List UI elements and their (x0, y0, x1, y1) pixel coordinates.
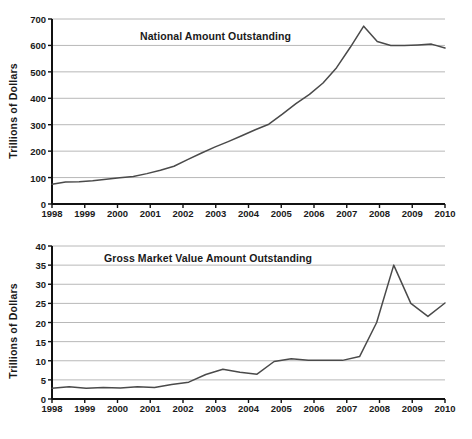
y-tick-label: 40 (16, 241, 46, 252)
y-tick-label: 100 (16, 172, 46, 183)
y-tick-label: 15 (16, 336, 46, 347)
y-tick-label: 300 (16, 119, 46, 130)
plot-svg-top (0, 0, 472, 222)
y-tick-label: 500 (16, 66, 46, 77)
y-tick-label: 30 (16, 279, 46, 290)
chart-national-amount-outstanding: Trillions of Dollars National Amount Out… (0, 0, 472, 222)
y-tick-label: 35 (16, 260, 46, 271)
x-tick-label: 2010 (425, 403, 465, 414)
y-tick-label: 600 (16, 40, 46, 51)
plot-area-top (0, 0, 472, 222)
chart-gross-market-value-amount-outstanding: Trillions of Dollars Gross Market Value … (0, 222, 472, 439)
y-tick-label: 10 (16, 355, 46, 366)
x-tick-label: 2010 (425, 208, 465, 219)
y-tick-label: 5 (16, 374, 46, 385)
y-tick-label: 25 (16, 298, 46, 309)
y-tick-label: 200 (16, 146, 46, 157)
y-tick-label: 20 (16, 317, 46, 328)
y-tick-label: 400 (16, 93, 46, 104)
y-tick-label: 700 (16, 14, 46, 25)
